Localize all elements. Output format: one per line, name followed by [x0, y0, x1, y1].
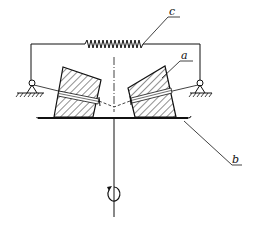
ground-hatch-icon: [16, 93, 43, 97]
ground-hatch-icon: [189, 93, 212, 97]
diagram-canvas: c: [0, 0, 253, 231]
leader-c: [143, 17, 180, 44]
label-b: b: [232, 153, 239, 166]
left-block: [54, 67, 101, 117]
spring-frame: [31, 40, 200, 82]
label-a: a: [181, 49, 188, 62]
spring: [85, 40, 143, 48]
label-c: c: [169, 5, 175, 18]
rotation-arrow-icon: [107, 186, 120, 201]
right-block: [128, 66, 176, 117]
